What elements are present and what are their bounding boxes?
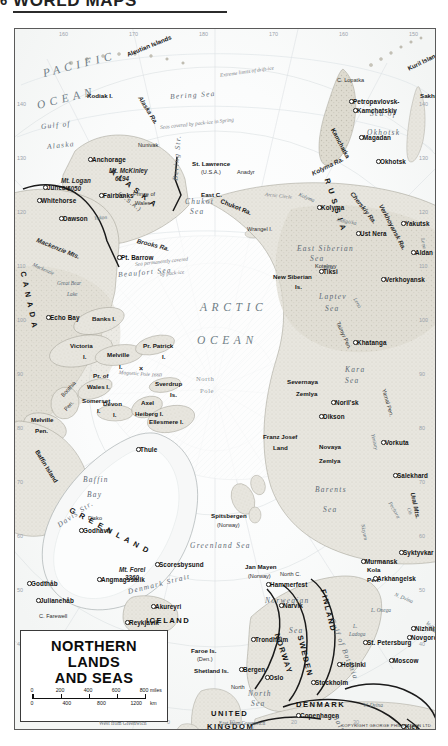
settlement-dot-icon bbox=[337, 662, 342, 667]
greenwich-east-label: East from Greenwich bbox=[219, 720, 265, 726]
settlement-dot-icon bbox=[99, 193, 104, 198]
title-line-1: NORTHERN bbox=[21, 638, 167, 654]
scale-tick-mark bbox=[145, 694, 146, 698]
settlement-dot-icon bbox=[317, 205, 322, 210]
settlement-dot-icon bbox=[125, 620, 130, 625]
settlement-dot-icon bbox=[411, 626, 416, 631]
settlement-dot-icon bbox=[356, 231, 361, 236]
scale-miles-tick: 200 bbox=[56, 687, 65, 693]
settlement-dot-icon bbox=[373, 576, 378, 581]
settlement-dot-icon bbox=[59, 216, 64, 221]
settlement-dot-icon bbox=[136, 447, 141, 452]
scale-km-labels: 04008001200km bbox=[30, 700, 158, 708]
scale-km-tick: 400 bbox=[62, 700, 71, 706]
scale-miles-labels: 0200400600800miles bbox=[30, 687, 158, 694]
settlement-dot-icon bbox=[319, 414, 324, 419]
settlement-dot-icon bbox=[359, 135, 364, 140]
map-basemap bbox=[15, 29, 435, 729]
settlement-dot-icon bbox=[376, 159, 381, 164]
scale-bars: 0200400600800miles 04008001200km bbox=[30, 687, 158, 708]
header-rule bbox=[13, 11, 227, 13]
greenwich-west-label: West from Greenwich bbox=[99, 720, 146, 726]
settlement-dot-icon bbox=[46, 315, 51, 320]
settlement-dot-icon bbox=[296, 713, 301, 718]
map-container[interactable]: PACIFICOCEANARCTICOCEANATLANTICOCEAN Ber… bbox=[14, 28, 436, 730]
settlement-dot-icon bbox=[331, 400, 336, 405]
page-header: 6 WORLD MAPS bbox=[0, 0, 448, 20]
settlement-dot-icon bbox=[389, 658, 394, 663]
settlement-dot-icon bbox=[239, 667, 244, 672]
settlement-dot-icon bbox=[265, 675, 270, 680]
settlement-dot-icon bbox=[361, 559, 366, 564]
title-line-3: AND SEAS bbox=[21, 670, 167, 686]
scale-miles-tick: 0 bbox=[31, 687, 34, 693]
settlement-dot-icon bbox=[363, 640, 368, 645]
settlement-dot-icon bbox=[266, 582, 271, 587]
scale-miles-tick: 400 bbox=[84, 687, 93, 693]
title-line-2: LANDS bbox=[21, 654, 167, 670]
settlement-dot-icon bbox=[349, 99, 354, 104]
settlement-dot-icon bbox=[399, 550, 404, 555]
scale-tick-mark bbox=[33, 694, 34, 698]
settlement-dot-icon bbox=[251, 637, 256, 642]
settlement-dot-icon bbox=[151, 604, 156, 609]
settlement-dot-icon bbox=[311, 680, 316, 685]
settlement-dot-icon bbox=[353, 108, 358, 113]
settlement-dot-icon bbox=[381, 277, 386, 282]
settlement-dot-icon bbox=[88, 157, 93, 162]
settlement-dot-icon bbox=[393, 473, 398, 478]
settlement-dot-icon bbox=[279, 603, 284, 608]
map-title-box: NORTHERN LANDS AND SEAS 0200400600800mil… bbox=[20, 630, 168, 722]
magnetic-pole-icon: × bbox=[139, 365, 143, 372]
scale-tick-mark bbox=[89, 694, 90, 698]
settlement-dot-icon bbox=[401, 221, 406, 226]
settlement-dot-icon bbox=[155, 562, 160, 567]
settlement-dot-icon bbox=[353, 340, 358, 345]
settlement-dot-icon bbox=[97, 577, 102, 582]
copyright-notice: COPYRIGHT GEORGE PHILIP & SON LTD bbox=[341, 723, 431, 728]
scale-km-unit: km bbox=[150, 700, 157, 706]
settlement-dot-icon bbox=[43, 185, 48, 190]
settlement-dot-icon bbox=[79, 528, 84, 533]
settlement-dot-icon bbox=[37, 198, 42, 203]
page-title: WORLD MAPS bbox=[13, 0, 137, 11]
scale-miles-tick: 800 bbox=[140, 687, 149, 693]
scale-miles-bar bbox=[32, 694, 146, 699]
settlement-dot-icon bbox=[36, 598, 41, 603]
settlement-dot-icon bbox=[407, 635, 412, 640]
settlement-dot-icon bbox=[117, 255, 122, 260]
scale-km-tick: 0 bbox=[31, 700, 34, 706]
scale-km-tick: 1200 bbox=[130, 700, 142, 706]
scale-miles-tick: 600 bbox=[112, 687, 121, 693]
settlement-dot-icon bbox=[27, 581, 32, 586]
scale-tick-mark bbox=[117, 694, 118, 698]
page-number: 6 bbox=[0, 0, 7, 8]
settlement-dot-icon bbox=[411, 250, 416, 255]
scale-tick-mark bbox=[61, 694, 62, 698]
scale-miles-unit: miles bbox=[150, 687, 162, 693]
settlement-dot-icon bbox=[319, 269, 324, 274]
settlement-dot-icon bbox=[381, 440, 386, 445]
scale-km-tick: 800 bbox=[97, 700, 106, 706]
